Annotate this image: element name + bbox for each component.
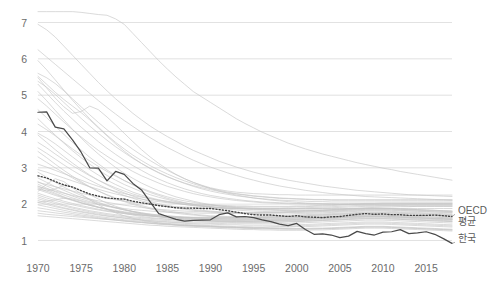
y-tick-label: 1 — [21, 235, 27, 247]
x-tick-label: 1995 — [242, 262, 266, 274]
x-tick-label: 2005 — [328, 262, 352, 274]
y-tick-label: 3 — [21, 162, 27, 174]
y-tick-label: 2 — [21, 198, 27, 210]
oecd-average-label-line2: 평균 — [458, 216, 476, 227]
x-tick-label: 1980 — [113, 262, 137, 274]
chart-background — [0, 0, 493, 290]
y-tick-label: 6 — [21, 53, 27, 65]
x-tick-label: 1985 — [156, 262, 180, 274]
line-chart: 1234567 19701975198019851990199520002005… — [0, 0, 493, 290]
x-tick-label: 2000 — [285, 262, 309, 274]
korea-label: 한국 — [458, 233, 476, 244]
chart-canvas: 1234567 19701975198019851990199520002005… — [0, 0, 493, 290]
x-tick-label: 1990 — [199, 262, 223, 274]
y-tick-label: 5 — [21, 89, 27, 101]
oecd-average-label: OECD — [458, 205, 487, 216]
x-tick-label: 1970 — [26, 262, 50, 274]
x-tick-label: 2015 — [414, 262, 438, 274]
x-tick-label: 2010 — [371, 262, 395, 274]
y-tick-label: 7 — [21, 17, 27, 29]
x-tick-label: 1975 — [69, 262, 93, 274]
y-tick-label: 4 — [21, 126, 27, 138]
